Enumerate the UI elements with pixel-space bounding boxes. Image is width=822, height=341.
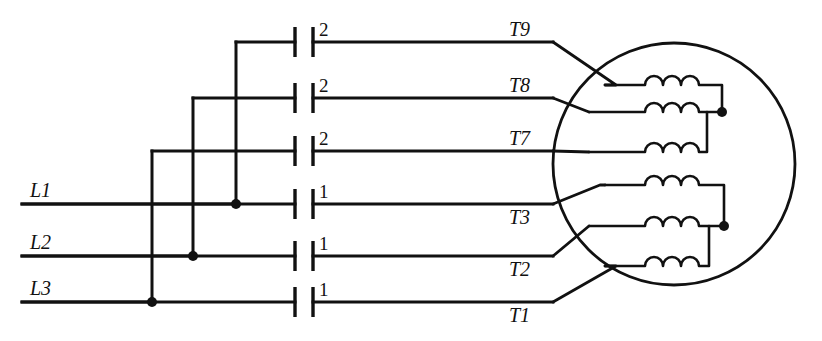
junction-dot-group [147,107,729,307]
winding-t3 [605,176,724,226]
contactor-label-1: 2 [319,19,329,40]
contactor-label-group: 2 2 2 1 1 1 [319,19,329,300]
lead-t1 [553,266,616,302]
junction-dot-winding-upper [717,107,727,117]
winding-t1 [605,226,709,266]
label-t1: T1 [509,304,530,326]
label-t2: T2 [509,258,530,280]
lead-t2 [553,226,589,256]
supply-line-group [22,204,236,302]
row-wire-left-group [22,42,295,302]
label-l1: L1 [29,179,51,201]
contactor-label-5: 1 [319,233,329,254]
terminal-label-group: T9 T8 T7 T3 T2 T1 [509,18,531,326]
contactor-label-3: 2 [319,128,329,149]
junction-dot-winding-lower [719,221,729,231]
winding-group-lower [589,176,724,266]
lead-t3 [553,185,605,204]
junction-dot-l1 [231,199,241,209]
contactor-label-4: 1 [319,181,329,202]
contactor-label-2: 2 [319,75,329,96]
label-t9: T9 [509,18,530,40]
winding-t2 [589,217,724,226]
contactor-group [295,27,313,317]
label-t7: T7 [509,127,531,149]
label-l3: L3 [29,277,51,299]
label-l2: L2 [29,231,51,253]
contactor-label-6: 1 [319,279,329,300]
junction-dot-l2 [188,251,198,261]
motor-body-circle [553,43,795,285]
motor-wiring-diagram: L1 L2 L3 2 2 2 1 1 1 T9 T8 T7 T3 T2 T1 [0,0,822,341]
winding-group-upper [589,76,722,152]
supply-label-group: L1 L2 L3 [29,179,51,299]
lead-t7 [553,151,589,152]
label-t8: T8 [509,74,530,96]
label-t3: T3 [509,206,530,228]
winding-t8 [589,103,722,112]
junction-dot-l3 [147,297,157,307]
winding-t7 [589,112,707,152]
schematic-canvas: L1 L2 L3 2 2 2 1 1 1 T9 T8 T7 T3 T2 T1 [0,0,822,341]
riser-group [152,42,236,302]
